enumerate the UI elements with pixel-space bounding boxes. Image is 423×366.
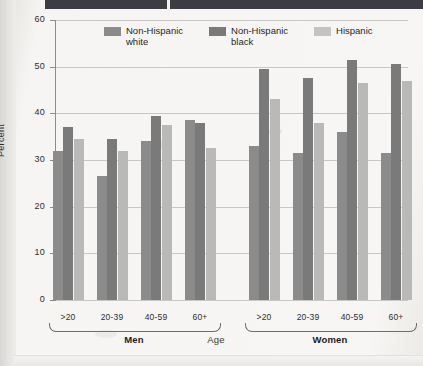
y-axis-tick-label: 20 — [15, 201, 45, 211]
chart-legend: Non-Hispanic white Non-Hispanic black Hi… — [104, 25, 373, 47]
x-axis-tick-label: >20 — [46, 312, 90, 322]
swatch-nonhispanic-white-icon — [104, 27, 121, 36]
bar — [259, 69, 269, 300]
legend-item: Hispanic — [314, 25, 372, 36]
bar — [337, 132, 347, 300]
legend-label: Hispanic — [336, 25, 372, 36]
y-axis-tick-label: 10 — [15, 247, 45, 257]
bar — [97, 176, 107, 300]
y-axis-tick-label: 40 — [15, 107, 45, 117]
bar — [195, 123, 205, 300]
group-label: Women — [245, 334, 415, 345]
bar — [314, 123, 324, 300]
legend-label: Non-Hispanic black — [231, 25, 288, 47]
bar — [185, 120, 195, 300]
bar — [249, 146, 259, 300]
x-axis-tick-label: 60+ — [374, 312, 418, 322]
y-axis-tick-label: 0 — [15, 294, 45, 304]
x-axis-tick-label: 60+ — [178, 312, 222, 322]
bar — [162, 125, 172, 300]
x-axis-tick-label: 40-59 — [134, 312, 178, 322]
bar — [53, 151, 63, 300]
bar — [118, 151, 128, 300]
y-axis-tick-label: 50 — [15, 61, 45, 71]
y-axis-tick — [50, 300, 56, 301]
legend-item: Non-Hispanic black — [209, 25, 288, 47]
bar — [63, 127, 73, 300]
bar — [74, 139, 84, 300]
y-axis-tick — [50, 113, 56, 114]
gridline — [56, 20, 408, 21]
bar — [270, 99, 280, 300]
group-brace — [245, 323, 417, 332]
bar — [347, 60, 357, 300]
bar — [303, 78, 313, 300]
page-header-bar-gap — [167, 0, 170, 9]
bar — [391, 64, 401, 300]
bar — [107, 139, 117, 300]
y-axis-tick-label: 30 — [15, 154, 45, 164]
plot-area — [56, 20, 408, 300]
x-axis-tick-label: 20-39 — [90, 312, 134, 322]
bar — [206, 148, 216, 300]
swatch-nonhispanic-black-icon — [209, 27, 226, 36]
x-axis-title: Age — [196, 334, 236, 345]
y-axis-tick-label: 60 — [15, 14, 45, 24]
bar — [151, 116, 161, 300]
y-axis-tick — [50, 160, 56, 161]
y-axis-tick — [50, 253, 56, 254]
page-bottom-edge — [14, 355, 423, 366]
swatch-hispanic-icon — [314, 27, 331, 36]
x-axis-tick-label: 20-39 — [286, 312, 330, 322]
gridline — [56, 300, 408, 301]
x-axis-tick-label: 40-59 — [330, 312, 374, 322]
page-header-bar — [45, 0, 423, 9]
bar — [141, 141, 151, 300]
bar — [402, 81, 412, 300]
y-axis-tick — [50, 207, 56, 208]
bar — [358, 83, 368, 300]
x-axis-tick-label: >20 — [242, 312, 286, 322]
scanned-page: Percent >2020-3940-5960+>2020-3940-5960+… — [0, 0, 423, 366]
y-axis-tick — [50, 67, 56, 68]
bar — [381, 153, 391, 300]
group-brace — [49, 323, 221, 332]
y-axis-title: Percent — [0, 124, 6, 157]
legend-item: Non-Hispanic white — [104, 25, 183, 47]
bar — [293, 153, 303, 300]
y-axis-tick — [50, 20, 56, 21]
group-label: Men — [49, 334, 219, 345]
bar-chart: Percent >2020-3940-5960+>2020-3940-5960+… — [0, 9, 423, 357]
legend-label: Non-Hispanic white — [126, 25, 183, 47]
